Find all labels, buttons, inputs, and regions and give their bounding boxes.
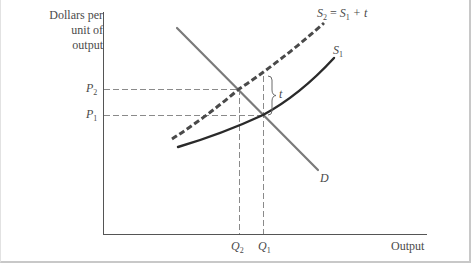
demand-curve — [177, 28, 318, 170]
demand-label: D — [320, 172, 329, 185]
tick-q2-sub: 2 — [240, 246, 244, 255]
y-axis-label-line-1: Dollars per — [49, 8, 103, 23]
supply-curve-s1 — [178, 58, 334, 147]
tick-p1-sub: 1 — [93, 114, 97, 123]
s2-label: S2 = S1 + t — [317, 7, 367, 24]
tax-label: t — [279, 88, 282, 101]
tick-p2: P2 — [86, 82, 97, 99]
y-axis-label-line-3: output — [49, 38, 103, 53]
tick-q2: Q2 — [231, 240, 244, 257]
s1-label: S1 — [333, 44, 343, 61]
tick-p2-sub: 2 — [93, 88, 97, 97]
tick-q1: Q1 — [258, 240, 271, 257]
tick-q1-main: Q — [258, 239, 267, 253]
s1-label-sub: 1 — [339, 50, 343, 59]
tick-p1: P1 — [86, 108, 97, 125]
x-axis-label: Output — [391, 240, 424, 253]
tick-q1-sub: 1 — [267, 246, 271, 255]
y-axis-label-line-2: unit of — [49, 23, 103, 38]
y-axis-label: Dollars per unit of output — [49, 8, 103, 53]
tick-q2-main: Q — [231, 239, 240, 253]
s2-label-tail: + t — [350, 6, 367, 20]
s2-label-eq: = — [327, 6, 340, 20]
